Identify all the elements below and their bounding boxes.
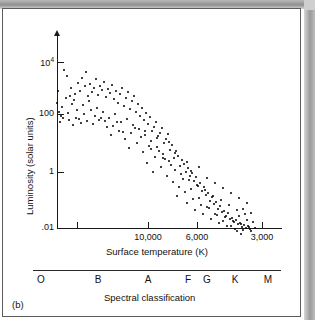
scatter-point xyxy=(203,186,205,188)
spectral-class-label-a: A xyxy=(141,274,155,285)
scatter-point xyxy=(169,149,171,151)
scatter-point xyxy=(150,140,152,142)
scatter-point xyxy=(171,144,173,146)
y-axis-arrow-icon xyxy=(54,30,60,36)
scatter-point xyxy=(242,229,244,231)
scatter-point xyxy=(235,219,237,221)
scatter-point xyxy=(91,91,93,93)
scatter-point xyxy=(107,88,109,90)
scatter-point xyxy=(69,95,71,97)
scatter-point xyxy=(142,151,144,153)
scatter-point xyxy=(136,142,138,144)
scatter-point xyxy=(73,99,75,101)
scatter-point xyxy=(192,198,194,200)
scatter-point xyxy=(120,121,122,123)
scatter-point xyxy=(79,90,81,92)
scatter-point xyxy=(85,71,87,73)
scatter-point xyxy=(103,81,105,83)
scatter-plot-area: Surface temperature (K) Spectral classif… xyxy=(0,0,315,320)
scatter-point xyxy=(186,202,188,204)
y-axis-line xyxy=(57,36,58,228)
scatter-point xyxy=(177,155,179,157)
scatter-point xyxy=(230,225,232,227)
scatter-point xyxy=(57,90,59,92)
scatter-point xyxy=(138,128,140,130)
scatter-point xyxy=(92,123,94,125)
scatter-point xyxy=(216,214,218,216)
scatter-point xyxy=(189,175,191,177)
spectral-class-label-g: G xyxy=(200,274,214,285)
scatter-point xyxy=(110,134,112,136)
scatter-point xyxy=(101,89,103,91)
scatter-point xyxy=(129,108,131,110)
scatter-point xyxy=(165,138,167,140)
y-axis-tick-label: .01 xyxy=(20,222,54,232)
scatter-point xyxy=(86,120,88,122)
scatter-point xyxy=(65,97,67,99)
scatter-point xyxy=(191,172,193,174)
scatter-point xyxy=(130,132,132,134)
scatter-point xyxy=(179,165,181,167)
scatter-point xyxy=(144,130,146,132)
scatter-point xyxy=(133,95,135,97)
x-axis-tick xyxy=(262,222,263,228)
scatter-point xyxy=(158,150,160,152)
scatter-point xyxy=(180,173,182,175)
scatter-point xyxy=(88,100,90,102)
scatter-point xyxy=(147,123,149,125)
scatter-point xyxy=(243,224,245,226)
scatter-point xyxy=(182,178,184,180)
scatter-point xyxy=(162,153,164,155)
scatter-point xyxy=(102,111,104,113)
scatter-point xyxy=(90,109,92,111)
scatter-point xyxy=(222,220,224,222)
scatter-point xyxy=(100,117,102,119)
scatter-point xyxy=(213,203,215,205)
scatter-point xyxy=(199,182,201,184)
scatter-point xyxy=(89,83,91,85)
scatter-point xyxy=(126,118,128,120)
y-axis-tick xyxy=(58,62,64,63)
x-axis-tick-label: 10,000 xyxy=(128,232,168,242)
spectral-class-label-b: B xyxy=(91,274,105,285)
scatter-point xyxy=(141,107,143,109)
scatter-point xyxy=(93,87,95,89)
scatter-point xyxy=(137,103,139,105)
scatter-point xyxy=(183,163,185,165)
scatter-point xyxy=(68,119,70,121)
scatter-point xyxy=(186,161,188,163)
scatter-point xyxy=(181,159,183,161)
scatter-point xyxy=(81,77,83,79)
scatter-point xyxy=(105,96,107,98)
scatter-point xyxy=(84,85,86,87)
scatter-point xyxy=(204,189,206,191)
y-axis-tick xyxy=(58,172,64,173)
scatter-point xyxy=(173,157,175,159)
scatter-point xyxy=(207,192,209,194)
scatter-point xyxy=(150,148,152,150)
scatter-point xyxy=(139,115,141,117)
scatter-point xyxy=(106,126,108,128)
spectral-class-label-f: F xyxy=(181,274,195,285)
scatter-point xyxy=(238,215,240,217)
scatter-point xyxy=(206,177,208,179)
scatter-point xyxy=(236,209,238,211)
scatter-point xyxy=(170,164,172,166)
scatter-point xyxy=(143,119,145,121)
scatter-point xyxy=(99,85,101,87)
spectral-class-label-m: M xyxy=(261,274,275,285)
scatter-point xyxy=(242,208,244,210)
scatter-point xyxy=(96,107,98,109)
scatter-point xyxy=(168,160,170,162)
scatter-point xyxy=(152,171,154,173)
x-axis-tick xyxy=(77,222,78,228)
scatter-point xyxy=(190,188,192,190)
scatter-point xyxy=(194,209,196,211)
scatter-point xyxy=(77,82,79,84)
scatter-point xyxy=(236,230,238,232)
scatter-point xyxy=(202,213,204,215)
scatter-point xyxy=(163,142,165,144)
scatter-point xyxy=(71,103,73,105)
scatter-point xyxy=(227,212,229,214)
scatter-point xyxy=(128,147,130,149)
